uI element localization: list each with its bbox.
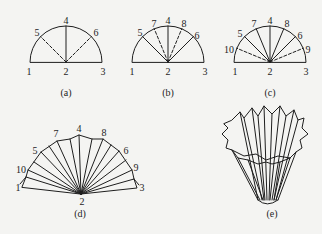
- point-label-8: 8: [285, 19, 290, 29]
- point-label-5: 5: [35, 28, 40, 38]
- panel-caption-e: (e): [266, 209, 277, 219]
- panel-caption-d: (d): [74, 209, 86, 219]
- point-label-4: 4: [64, 16, 69, 26]
- point-label-5: 5: [33, 146, 38, 156]
- point-label-2: 2: [64, 67, 69, 77]
- panel-d-drawing: [20, 135, 139, 194]
- point-label-8: 8: [182, 19, 187, 29]
- panel-caption-b: (b): [162, 88, 174, 98]
- panel-c-drawing: [234, 26, 306, 62]
- point-label-1: 1: [16, 183, 21, 193]
- point-label-6: 6: [195, 31, 200, 41]
- point-label-7: 7: [252, 19, 257, 29]
- point-label-2: 2: [166, 67, 171, 77]
- point-label-1: 1: [233, 67, 238, 77]
- point-label-3: 3: [304, 67, 309, 77]
- point-label-1: 1: [27, 67, 32, 77]
- point-label-10: 10: [16, 165, 26, 175]
- point-label-3: 3: [140, 183, 145, 193]
- point-label-4: 4: [77, 124, 82, 134]
- point-label-8: 8: [102, 128, 107, 138]
- panel-a-drawing: [30, 26, 102, 62]
- panel-e-drawing: [222, 106, 308, 204]
- panel-b-drawing: [132, 26, 204, 62]
- point-label-6: 6: [124, 146, 129, 156]
- point-label-3: 3: [101, 67, 106, 77]
- point-label-4: 4: [166, 16, 171, 26]
- point-label-2: 2: [80, 197, 85, 207]
- panel-caption-a: (a): [60, 88, 71, 98]
- panel-caption-c: (c): [264, 88, 275, 98]
- point-label-9: 9: [306, 45, 311, 55]
- folding-diagram: [0, 0, 322, 234]
- point-label-4: 4: [268, 16, 273, 26]
- point-label-7: 7: [152, 19, 157, 29]
- point-label-6: 6: [94, 28, 99, 38]
- point-label-2: 2: [268, 67, 273, 77]
- point-label-5: 5: [238, 29, 243, 39]
- point-label-5: 5: [138, 28, 143, 38]
- point-label-7: 7: [54, 129, 59, 139]
- point-label-9: 9: [134, 163, 139, 173]
- point-label-6: 6: [298, 31, 303, 41]
- point-label-1: 1: [130, 67, 135, 77]
- point-label-10: 10: [224, 45, 234, 55]
- point-label-3: 3: [203, 67, 208, 77]
